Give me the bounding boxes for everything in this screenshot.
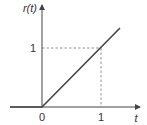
x-axis-label: t <box>134 112 138 124</box>
x-tick-label-1: 1 <box>98 111 104 123</box>
ramp-function-plot: r(t) 1 0 1 t <box>0 0 147 125</box>
ramp-line <box>10 28 120 107</box>
y-tick-label-1: 1 <box>30 42 36 54</box>
origin-label: 0 <box>39 111 45 123</box>
y-axis-label: r(t) <box>23 2 37 14</box>
